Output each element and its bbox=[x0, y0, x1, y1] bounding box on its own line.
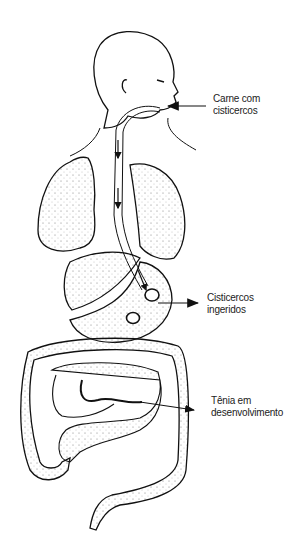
label-ingested-cysticerci: Cisticercos ingeridos bbox=[207, 292, 254, 316]
label-line: Tênia em bbox=[211, 395, 283, 407]
label-line: desenvolvimento bbox=[211, 407, 283, 419]
label-line: ingeridos bbox=[207, 304, 254, 316]
digestive-system-illustration bbox=[0, 0, 292, 542]
label-line: Cisticercos bbox=[207, 292, 254, 304]
small-intestine bbox=[52, 363, 161, 462]
lungs bbox=[38, 157, 185, 259]
label-line: Carne com bbox=[213, 93, 260, 105]
neck-outline bbox=[70, 118, 196, 156]
label-developing-tapeworm: Tênia em desenvolvimento bbox=[211, 395, 283, 419]
label-meat-with-cysticerci: Carne com cisticercos bbox=[213, 93, 260, 117]
head bbox=[94, 32, 178, 128]
label-line: cisticercos bbox=[213, 105, 260, 117]
